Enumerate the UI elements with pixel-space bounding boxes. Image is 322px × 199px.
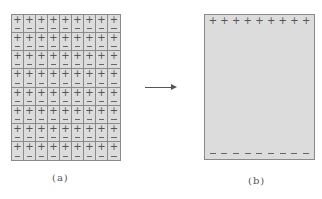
minus-charge-icon [39,83,44,84]
plus-charge-icon: + [96,88,107,98]
plus-charge-icon: + [254,16,264,26]
domain-cell: + [24,88,36,106]
plus-charge-icon: + [60,33,71,43]
plus-charge-icon: + [24,124,35,134]
domain-cell: + [84,106,96,124]
minus-charge-icon [15,101,20,102]
domain-cell: + [96,15,108,33]
domain-cell: + [60,69,72,87]
domain-cell: + [24,15,36,33]
domain-cell: + [72,88,84,106]
minus-charge-icon [99,83,104,84]
minus-charge-icon [63,64,68,65]
domain-cell: + [96,106,108,124]
minus-charge-icon [63,46,68,47]
plus-charge-icon: + [48,15,59,25]
plus-charge-icon: + [36,124,47,134]
plus-charge-icon: + [84,124,95,134]
domain-cell: + [108,69,120,87]
minus-charge-icon [75,101,80,102]
domain-cell: + [72,142,84,160]
domain-cell: + [48,33,60,51]
domain-cell: + [72,106,84,124]
plus-charge-icon: + [48,69,59,79]
domain-cell: + [36,15,48,33]
plus-charge-icon: + [96,51,107,61]
domain-cell: + [36,124,48,142]
domain-cell: + [84,51,96,69]
plus-charge-icon: + [36,142,47,152]
domain-cell: + [60,33,72,51]
domain-cell: + [72,124,84,142]
plus-charge-icon: + [60,69,71,79]
minus-charge-icon [15,83,20,84]
plus-charge-icon: + [96,124,107,134]
plus-charge-icon: + [243,16,253,26]
minus-charge-icon [15,64,20,65]
plus-charge-icon: + [72,142,83,152]
plus-charge-icon: + [12,106,23,116]
minus-charge-icon [99,46,104,47]
domain-cell: + [48,51,60,69]
domain-cell: + [72,51,84,69]
minus-charge-icon [221,153,227,154]
minus-charge-icon [51,137,56,138]
minus-charge-icon [75,28,80,29]
domain-cell: + [48,124,60,142]
plus-charge-icon: + [84,69,95,79]
plus-charge-icon: + [36,69,47,79]
minus-charge-icon [51,64,56,65]
domain-cell: + [96,124,108,142]
plus-charge-icon: + [36,88,47,98]
plus-charge-icon: + [48,51,59,61]
plus-charge-icon: + [60,106,71,116]
plus-charge-icon: + [12,124,23,134]
domain-cell: + [12,142,24,160]
plus-charge-icon: + [60,88,71,98]
plus-charge-icon: + [108,124,120,134]
domain-cell: + [96,142,108,160]
minus-charge-icon [291,153,297,154]
domain-cell: + [24,33,36,51]
transition-arrow [145,87,175,88]
minus-charge-icon [39,46,44,47]
panel-b-bulk: +++++++++ [204,14,315,160]
plus-charge-icon: + [72,51,83,61]
minus-charge-icon [51,83,56,84]
domain-cell: + [96,33,108,51]
plus-charge-icon: + [219,16,229,26]
minus-charge-icon [15,137,20,138]
domain-cell: + [36,69,48,87]
minus-charge-icon [27,137,32,138]
minus-charge-icon [99,119,104,120]
plus-charge-icon: + [266,16,276,26]
plus-charge-icon: + [96,69,107,79]
plus-charge-icon: + [108,69,120,79]
minus-charge-icon [63,28,68,29]
domain-cell: + [36,51,48,69]
minus-charge-icon [111,101,117,102]
domain-cell: + [60,88,72,106]
minus-charge-icon [87,156,92,157]
plus-charge-icon: + [84,142,95,152]
minus-charge-icon [87,101,92,102]
minus-charge-icon [87,119,92,120]
plus-charge-icon: + [12,88,23,98]
domain-cell: + [36,142,48,160]
plus-charge-icon: + [12,69,23,79]
minus-charge-icon [111,83,117,84]
minus-charge-icon [111,137,117,138]
domain-cell: + [12,69,24,87]
minus-charge-icon [210,153,216,154]
plus-charge-icon: + [60,15,71,25]
domain-cell: + [72,15,84,33]
plus-charge-icon: + [72,15,83,25]
minus-charge-icon [63,137,68,138]
minus-charge-icon [99,137,104,138]
plus-charge-icon: + [289,16,299,26]
minus-charge-icon [75,46,80,47]
minus-charge-icon [27,28,32,29]
plus-charge-icon: + [24,88,35,98]
domain-cell: + [60,15,72,33]
domain-cell: + [96,69,108,87]
